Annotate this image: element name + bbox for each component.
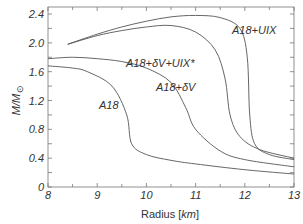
tick-label: 9: [94, 189, 100, 201]
tick-label: 0.8: [29, 123, 45, 135]
tick-label: 8: [45, 189, 52, 201]
y-axis-label: M/M⊙: [10, 85, 25, 115]
tick-label: 1.6: [29, 66, 45, 78]
tick-label: 0.4: [29, 152, 44, 164]
label-a18-dv: A18+δV: [155, 81, 197, 93]
tick-label: 12: [239, 189, 251, 201]
label-a18: A18: [98, 99, 119, 111]
mass-radius-chart: 891011121300.40.81.21.62.02.4 A18+UIX A1…: [0, 0, 303, 224]
x-axis-label: Radius [km]: [141, 208, 199, 220]
tick-label: 11: [190, 189, 201, 201]
axis-ticks: 891011121300.40.81.21.62.02.4: [28, 7, 301, 201]
svg-text:M/M⊙: M/M⊙: [10, 85, 25, 115]
tick-label: 1.2: [29, 95, 44, 107]
tick-label: 10: [140, 189, 153, 201]
curve-a18-v: [48, 57, 294, 167]
tick-label: 13: [288, 189, 301, 201]
curves: [48, 15, 294, 174]
tick-label: 2.0: [28, 37, 45, 49]
label-a18-dv-uix: A18+δV+UIX*: [125, 57, 195, 69]
tick-label: 0: [38, 181, 45, 193]
tick-label: 2.4: [28, 8, 44, 20]
label-a18-uix: A18+UIX: [231, 24, 277, 36]
